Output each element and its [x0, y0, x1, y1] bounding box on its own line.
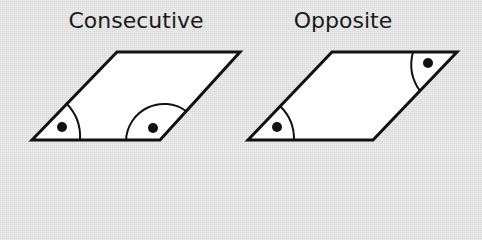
angle-dot-bottom-left: [272, 122, 282, 132]
diagram-canvas: [0, 0, 482, 151]
opposite-parallelogram: [248, 52, 457, 140]
angle-dot-top-right: [423, 58, 433, 68]
angle-dot-bottom-left: [57, 122, 67, 132]
angle-dot-bottom-right: [148, 123, 158, 133]
consecutive-parallelogram: [32, 52, 240, 140]
